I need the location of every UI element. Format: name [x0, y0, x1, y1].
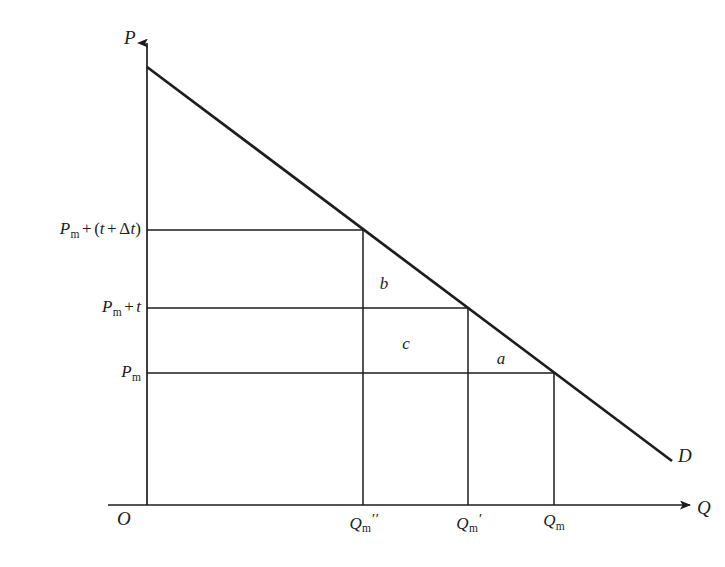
p-high-close-paren: ) — [135, 219, 141, 238]
p-high-sub: m — [70, 228, 79, 240]
origin-label: O — [117, 509, 131, 528]
p-low-sub: m — [132, 371, 141, 383]
demand-curve — [147, 67, 672, 461]
p-low-base: P — [121, 362, 131, 381]
axis-label-q: Q — [697, 498, 711, 517]
region-label-c: c — [402, 335, 410, 352]
q-monopoly-base: Q — [543, 511, 555, 530]
p-mid-base: P — [102, 297, 112, 316]
p-high-plus1: + — [80, 219, 95, 238]
axis-label-p: P — [124, 28, 136, 47]
price-tick-label-p-high: Pm+(t+Δt) — [60, 220, 141, 240]
quantity-tick-label-q-monopoly: Qm — [543, 512, 565, 532]
price-tick-label-p-mid: Pm+t — [102, 298, 141, 318]
p-mid-sub: m — [112, 306, 121, 318]
q-double-prime-sub: m — [362, 522, 371, 534]
region-label-a: a — [497, 350, 506, 367]
p-high-plus2: + — [105, 219, 120, 238]
q-double-prime-base: Q — [349, 514, 361, 533]
q-single-prime-mark: ′ — [478, 511, 482, 527]
q-double-prime-mark: ′′ — [371, 511, 379, 527]
q-monopoly-sub: m — [555, 520, 564, 532]
p-high-delta: Δ — [119, 219, 130, 238]
quantity-tick-label-q-single-prime: Qm′ — [456, 512, 481, 535]
q-single-prime-sub: m — [469, 522, 478, 534]
price-tick-label-p-low: Pm — [121, 363, 141, 383]
q-single-prime-base: Q — [456, 514, 468, 533]
curve-label-d: D — [678, 446, 692, 465]
p-mid-t1: t — [136, 297, 141, 316]
p-high-base: P — [60, 219, 70, 238]
p-mid-plus1: + — [122, 297, 137, 316]
diagram-canvas — [0, 0, 725, 567]
region-label-b: b — [380, 275, 389, 292]
figure-root: P Q O D Pm+(t+Δt) Pm+t Pm Qm′′ Qm′ Qm b … — [0, 0, 725, 567]
quantity-tick-label-q-double-prime: Qm′′ — [349, 512, 378, 535]
